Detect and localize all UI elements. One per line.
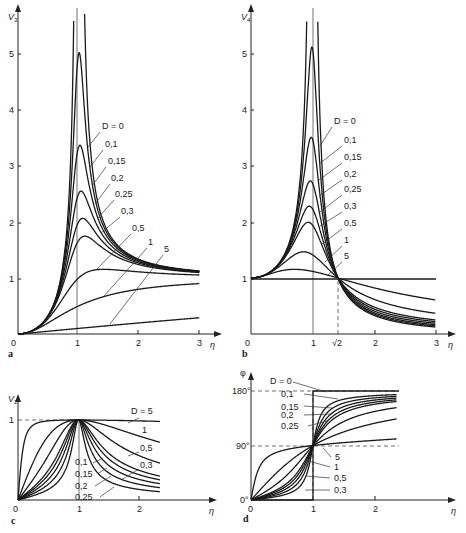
b-ytick-4: 4 [242,105,247,115]
b-ytick-1: 1 [242,274,247,284]
b-label-d02: 0,2 [344,169,357,179]
b-x-axis-arrow-icon [448,331,456,337]
a-label-d1: 1 [148,237,153,247]
a-ytick-4: 4 [9,105,14,115]
d-ylabel: φ [240,368,246,378]
c-curves [18,420,160,500]
b-ytick-3: 3 [242,161,247,171]
d-label-d01: 0,1 [281,389,294,399]
d-ytick-180: 180° [232,386,251,396]
d-y-axis-arrow-icon [248,372,254,380]
b-ytick-5: 5 [242,49,247,59]
a-x-ticks [138,330,199,334]
c-label-d015: 0,15 [75,469,93,479]
c-label-d025: 0,25 [75,492,93,502]
a-ytick-2: 2 [9,218,14,228]
d-label-d02: 0,2 [281,410,294,420]
c-label-d5: D = 5 [131,406,153,416]
leader-line [130,433,141,437]
a-ytick-3: 3 [9,161,14,171]
a-xtick-3: 3 [197,338,202,348]
b-label-d05: 0,5 [344,218,357,228]
d-panel-letter: d [243,513,249,524]
c-xtick-0: 0 [13,504,18,514]
panel-c-v2: V2 1 0 1 2 η c D = 5 1 0,5 0,3 0,1 0,15 … [8,394,217,526]
figure: V3 5 4 3 2 1 0 1 2 3 η a D = 0 0,1 0,15 … [0,0,466,533]
leader-line [101,217,120,233]
b-ylabel: V4 [241,12,251,23]
a-ytick-5: 5 [9,49,14,59]
b-curve [251,252,435,313]
b-curve-labels: D = 0 0,1 0,15 0,2 0,25 0,3 0,5 1 5 [334,116,362,261]
b-label-d1: 1 [344,235,349,245]
d-label-d03: 0,3 [334,485,347,495]
b-label-d5: 5 [344,251,349,261]
b-x-ticks [375,330,436,334]
a-label-d0: D = 0 [102,121,124,131]
b-curve [251,137,435,324]
a-label-d5: 5 [164,244,169,254]
a-xtick-1: 1 [75,338,80,348]
leader-line [100,487,114,497]
c-label-d02: 0,2 [75,481,88,491]
c-x-axis-arrow-icon [209,497,217,503]
panel-d-phase: φ 180° 90° 0° 0 1 2 η d D = 0 0,1 0,15 0… [232,368,456,524]
b-label-d0: D = 0 [334,116,356,126]
c-xtick-1: 1 [77,504,82,514]
leader-line [293,382,326,392]
a-label-d03: 0,3 [121,206,134,216]
b-label-d025: 0,25 [344,184,362,194]
a-panel-letter: a [8,348,13,359]
a-label-d015: 0,15 [108,156,126,166]
d-label-d5: 5 [335,452,340,462]
a-xtick-2: 2 [136,338,141,348]
d-xlabel: η [451,506,456,516]
a-y-axis-arrow-icon [15,4,21,12]
c-label-d1: 1 [142,425,147,435]
b-xtick-2: 2 [373,338,378,348]
a-curve [18,145,199,334]
b-xtick-3: 3 [434,338,439,348]
leader-line [304,394,338,399]
b-label-d01: 0,1 [344,135,357,145]
a-label-d025: 0,25 [115,189,133,199]
leader-line [98,200,114,218]
c-ylabel: V2 [8,394,18,405]
d-label-d1: 1 [334,462,339,472]
a-curves [18,14,199,334]
a-label-d02: 0,2 [111,173,124,183]
b-xtick-sqrt2: √2 [332,338,342,348]
a-curve-labels: D = 0 0,1 0,15 0,2 0,25 0,3 0,5 1 5 [102,121,169,254]
b-xlabel: η [448,340,453,350]
d-xtick-1: 1 [311,504,316,514]
d-curve [251,395,396,500]
leader-line [323,448,331,457]
d-xtick-2: 2 [373,504,378,514]
leader-line [327,262,342,276]
d-ytick-90: 90° [236,441,250,451]
leader-line [95,184,110,204]
a-label-d05: 0,5 [132,223,145,233]
c-ytick-1: 1 [9,415,14,425]
a-curve [18,191,199,334]
a-label-d01: 0,1 [105,139,118,149]
a-x-axis-arrow-icon [214,331,222,337]
leader-line [320,127,332,146]
d-xtick-0: 0 [248,504,253,514]
a-xlabel: η [210,340,215,350]
d-curve [251,400,396,500]
leader-line [306,476,330,478]
leader-line [319,146,342,164]
d-label-d025: 0,25 [281,421,299,431]
c-label-d03: 0,3 [140,460,153,470]
b-xtick-1: 1 [311,338,316,348]
c-xlabel: η [209,506,214,516]
d-x-axis-arrow-icon [448,497,456,503]
b-label-d015: 0,15 [344,152,362,162]
c-label-d01: 0,1 [75,457,88,467]
leader-line [92,167,106,186]
panel-a-v3: V3 5 4 3 2 1 0 1 2 3 η a D = 0 0,1 0,15 … [8,4,222,359]
c-label-d05: 0,5 [140,443,153,453]
a-ytick-1: 1 [9,274,14,284]
d-label-d05: 0,5 [334,473,347,483]
